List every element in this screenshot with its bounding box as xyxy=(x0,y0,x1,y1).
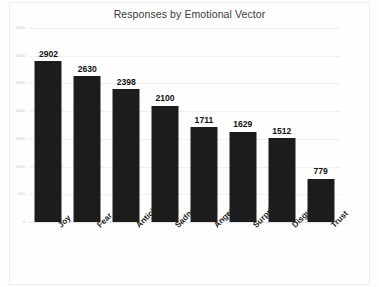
bar-chart-figure: Responses by Emotional Vector 0500100015… xyxy=(0,0,379,287)
chart-title: Responses by Emotional Vector xyxy=(0,8,379,20)
bar-slot: 2398 xyxy=(107,28,146,222)
bar-value-label: 2398 xyxy=(117,78,136,87)
y-axis-tick-label: 3000 xyxy=(16,54,25,58)
category-label-anticipation: Anticipation xyxy=(135,224,141,230)
y-axis-tick-label: 0 xyxy=(23,220,25,224)
bar-slot: 1629 xyxy=(223,28,262,222)
bar-slot: 2630 xyxy=(68,28,107,222)
y-axis-tick-label: 2500 xyxy=(16,81,25,85)
y-axis-tick-label: 3500 xyxy=(16,26,25,30)
category-label-joy: Joy xyxy=(57,224,63,230)
bar-fear[interactable] xyxy=(74,76,101,222)
bar-value-label: 1711 xyxy=(195,116,214,125)
bar-value-label: 779 xyxy=(313,167,327,176)
bar-anticipation[interactable] xyxy=(113,89,140,222)
category-label-sadness: Sadness xyxy=(174,224,180,230)
bar-surprise[interactable] xyxy=(229,132,256,222)
category-axis-labels: JoyFearAnticipationSadnessAngerSurpriseD… xyxy=(29,224,340,286)
bar-slot: 779 xyxy=(301,28,340,222)
bar-value-label: 2630 xyxy=(78,65,97,74)
bar-slot: 1711 xyxy=(185,28,224,222)
bar-slot: 1512 xyxy=(262,28,301,222)
bar-trust[interactable] xyxy=(307,179,334,222)
y-axis-tick-label: 1500 xyxy=(16,137,25,141)
bar-value-label: 1629 xyxy=(233,120,252,129)
bar-value-label: 2100 xyxy=(156,94,175,103)
category-label-fear: Fear xyxy=(96,224,102,230)
category-label-surprise: Surprise xyxy=(252,224,258,230)
bar-value-label: 1512 xyxy=(272,127,291,136)
bar-joy[interactable] xyxy=(35,61,62,222)
plot-area: 0500100015002000250030003500 29022630239… xyxy=(29,28,340,222)
bars-layer: 2902263023982100171116291512779 xyxy=(29,28,340,222)
y-axis-tick-label: 500 xyxy=(18,192,25,196)
bar-value-label: 2902 xyxy=(39,50,58,59)
category-label-anger: Anger xyxy=(213,224,219,230)
y-axis-tick-label: 2000 xyxy=(16,109,25,113)
y-axis-tick-label: 1000 xyxy=(16,164,25,168)
category-label-disgust: Disgust xyxy=(291,224,297,230)
category-label-trust: Trust xyxy=(330,224,336,230)
bar-slot: 2902 xyxy=(29,28,68,222)
